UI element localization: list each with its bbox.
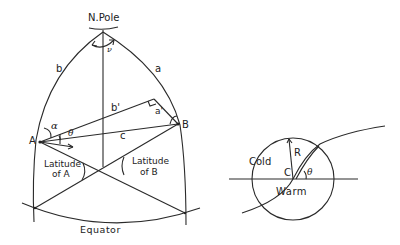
warm-label: Warm: [276, 186, 307, 197]
radius-label: R: [294, 147, 301, 158]
diagram-canvas: N.Pole b a ν b' a' c A B α θ Latitude of…: [0, 0, 400, 245]
theta-label-right: θ: [307, 167, 313, 177]
point-b: [176, 122, 179, 125]
meridian-arc-left: [33, 32, 103, 222]
point-a: [38, 140, 41, 143]
center-label: C: [284, 167, 291, 178]
angle-theta-arc-right: [304, 171, 306, 179]
a-prime-label: a': [155, 106, 163, 116]
equator-point-right: [184, 212, 186, 214]
latitude-a-label-line2: of A: [52, 169, 71, 179]
equator-arc: [22, 203, 200, 223]
theta-label-left: θ: [68, 128, 74, 138]
equator-point-left: [34, 207, 36, 209]
point-a-label: A: [29, 135, 36, 146]
north-pole-label: N.Pole: [88, 12, 119, 23]
equator-label: Equator: [80, 224, 121, 235]
front-curve: [242, 126, 385, 213]
latitude-b-label-line2: of B: [140, 167, 158, 177]
latitude-b-arc: [122, 157, 124, 175]
chord-c-label: c: [120, 130, 126, 141]
latitude-b-label-line1: Latitude: [132, 156, 170, 166]
point-b-label: B: [182, 119, 189, 130]
front-circle-diagram: Cold Warm R C θ: [229, 126, 385, 220]
pole-angle-label: ν: [107, 45, 112, 54]
alpha-label: α: [51, 120, 58, 131]
arc-b-label: b: [56, 63, 62, 74]
arc-a-label: a: [155, 63, 161, 74]
pole-angle-arrow-left: [92, 41, 97, 46]
spherical-triangle-diagram: N.Pole b a ν b' a' c A B α θ Latitude of…: [22, 12, 200, 235]
cold-label: Cold: [249, 156, 271, 167]
latitude-a-label-line1: Latitude: [44, 159, 82, 169]
b-prime-label: b': [111, 102, 120, 113]
latitude-a-arc: [82, 163, 85, 180]
pole-tick-arc: [89, 27, 118, 29]
